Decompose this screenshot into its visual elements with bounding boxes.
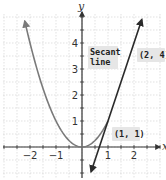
y-tick-label: 2 bbox=[72, 90, 78, 101]
x-tick-label: 1 bbox=[105, 150, 111, 161]
svg-text:(1, 1): (1, 1) bbox=[114, 129, 145, 139]
svg-text:(2, 4): (2, 4) bbox=[139, 50, 166, 60]
x-axis-label: x bbox=[162, 140, 166, 153]
x-tick-label: −2 bbox=[23, 150, 38, 161]
annotation-point-2-4: (2, 4) bbox=[137, 48, 166, 62]
svg-text:Secant: Secant bbox=[90, 47, 121, 57]
y-axis-label: y bbox=[77, 0, 85, 13]
annotation-secant-line: Secant line bbox=[88, 46, 121, 69]
parabola-curve bbox=[25, 21, 108, 147]
y-axis: y bbox=[77, 0, 85, 178]
x-tick-label: 2 bbox=[131, 150, 137, 161]
annotation-point-1-1: (1, 1) bbox=[112, 127, 145, 141]
svg-text:line: line bbox=[90, 57, 110, 67]
y-tick-label: 3 bbox=[72, 64, 78, 75]
y-tick-label: 1 bbox=[72, 116, 78, 127]
x-tick-label: −1 bbox=[49, 150, 64, 161]
y-tick-label: 4 bbox=[72, 38, 78, 49]
secant-line-graph: x y −2−1121234 Secant line (2, 4) (1, 1) bbox=[0, 0, 166, 180]
